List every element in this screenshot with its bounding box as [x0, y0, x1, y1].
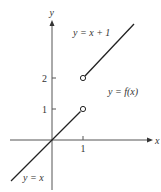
y-axis-label: y — [49, 7, 55, 18]
label-lower-line: y = x — [22, 172, 44, 183]
x-tick-label-1: 1 — [81, 143, 86, 154]
label-upper-line: y = x + 1 — [72, 27, 110, 38]
y-axis-arrow-icon — [50, 20, 55, 26]
x-axis-arrow-icon — [147, 138, 153, 143]
x-axis-label: x — [154, 135, 160, 146]
label-function: y = f(x) — [107, 86, 139, 98]
open-circle-1-2 — [80, 75, 85, 80]
y-tick-label-1: 1 — [42, 104, 47, 115]
piecewise-function-graph: 1 1 2 y x y = x + 1 y = f(x) y = x — [0, 0, 161, 192]
line-y-equals-x — [11, 112, 81, 182]
y-tick-label-2: 2 — [42, 73, 47, 84]
open-circle-1-1 — [80, 106, 85, 111]
